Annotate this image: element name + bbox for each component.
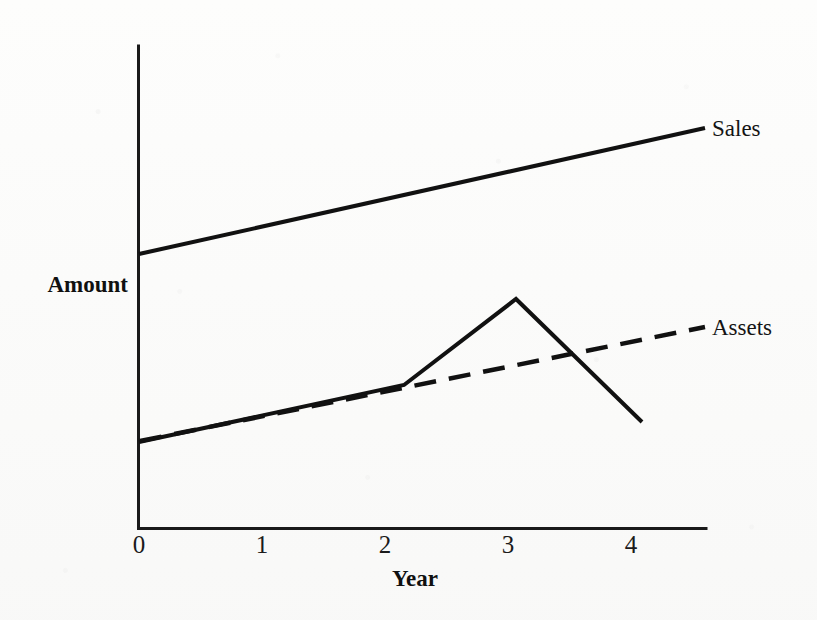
x-axis-title: Year (392, 566, 438, 591)
series-label-assets: Assets (712, 315, 772, 340)
x-tick-label-4: 4 (625, 531, 638, 558)
series-line-assets (140, 327, 705, 441)
line-chart: 0 1 2 3 4 Amount Year Sales Assets (0, 0, 817, 620)
series-line-sales (139, 128, 705, 254)
x-tick-label-0: 0 (133, 531, 146, 558)
y-axis-title: Amount (47, 272, 128, 297)
x-tick-label-3: 3 (502, 531, 515, 558)
x-tick-label-2: 2 (379, 531, 392, 558)
series-line-revenue (139, 299, 642, 442)
chart-page: 0 1 2 3 4 Amount Year Sales Assets (0, 0, 817, 620)
series-label-sales: Sales (712, 116, 761, 141)
x-tick-label-1: 1 (256, 531, 269, 558)
